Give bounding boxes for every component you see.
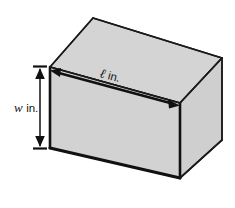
width-arrowhead-bottom (35, 136, 45, 147)
figure-container: ℓin. win. (0, 0, 235, 208)
prism-body (50, 18, 222, 178)
rectangular-prism-diagram: ℓin. win. (0, 0, 235, 208)
width-label: win. (14, 100, 38, 115)
width-arrowhead-top (35, 68, 45, 79)
width-unit: in. (26, 102, 38, 114)
width-dimension: win. (14, 67, 47, 149)
width-symbol: w (14, 100, 23, 115)
